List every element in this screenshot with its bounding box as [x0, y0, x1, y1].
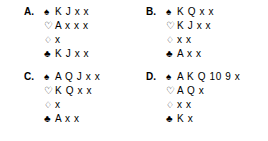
hand-b-heart-row: ♡ K J x x: [166, 19, 214, 33]
hand-d-spade-row: ♠ A K Q 10 9 x: [166, 70, 240, 84]
hand-d-heart-row: ♡ A Q x: [166, 84, 240, 98]
diamond-icon: ♢: [44, 33, 55, 47]
club-icon: ♣: [44, 47, 55, 61]
spade-icon: ♠: [44, 5, 55, 19]
hand-d-diamond-cards: x x: [177, 98, 192, 112]
hand-a: A. ♠ K J x x ♡ A x x x ♢ x ♣ K J x x: [24, 5, 89, 61]
diamond-icon: ♢: [166, 33, 177, 47]
hand-a-label: A.: [24, 5, 44, 19]
hand-c-diamond-cards: x: [55, 98, 61, 112]
hand-b-diamond-row: ♢ x x: [166, 33, 214, 47]
hand-b-spade-row: ♠ K Q x x: [166, 5, 214, 19]
club-icon: ♣: [166, 47, 177, 61]
heart-icon: ♡: [44, 19, 55, 33]
hand-d-label: D.: [146, 70, 166, 84]
hand-c-heart-row: ♡ K Q x x: [44, 84, 100, 98]
hand-d-club-row: ♣ K x: [166, 112, 240, 126]
diamond-icon: ♢: [166, 98, 177, 112]
hand-c: C. ♠ A Q J x x ♡ K Q x x ♢ x ♣ A x x: [24, 70, 100, 126]
club-icon: ♣: [166, 112, 177, 126]
heart-icon: ♡: [44, 84, 55, 98]
hand-b-diamond-cards: x x: [177, 33, 192, 47]
diamond-icon: ♢: [44, 98, 55, 112]
hand-c-label: C.: [24, 70, 44, 84]
hand-b-suits: ♠ K Q x x ♡ K J x x ♢ x x ♣ A x x: [166, 5, 214, 61]
hand-b-club-row: ♣ A x x: [166, 47, 214, 61]
heart-icon: ♡: [166, 84, 177, 98]
bridge-hands-figure: A. ♠ K J x x ♡ A x x x ♢ x ♣ K J x x B.: [0, 0, 268, 141]
hand-d: D. ♠ A K Q 10 9 x ♡ A Q x ♢ x x ♣ K x: [146, 70, 240, 126]
hand-a-spade-cards: K J x x: [55, 5, 89, 19]
club-icon: ♣: [44, 112, 55, 126]
hand-a-heart-row: ♡ A x x x: [44, 19, 89, 33]
hand-d-club-cards: K x: [177, 112, 193, 126]
hand-a-spade-row: ♠ K J x x: [44, 5, 89, 19]
spade-icon: ♠: [166, 70, 177, 84]
hand-b-label: B.: [146, 5, 166, 19]
hand-c-club-cards: A x x: [55, 112, 80, 126]
hand-b-heart-cards: K J x x: [177, 19, 211, 33]
hand-a-heart-cards: A x x x: [55, 19, 89, 33]
hand-a-diamond-cards: x: [55, 33, 61, 47]
hand-c-spade-row: ♠ A Q J x x: [44, 70, 100, 84]
hand-c-spade-cards: A Q J x x: [55, 70, 100, 84]
hand-d-spade-cards: A K Q 10 9 x: [177, 70, 240, 84]
hand-a-diamond-row: ♢ x: [44, 33, 89, 47]
heart-icon: ♡: [166, 19, 177, 33]
hand-c-heart-cards: K Q x x: [55, 84, 92, 98]
spade-icon: ♠: [44, 70, 55, 84]
hand-d-diamond-row: ♢ x x: [166, 98, 240, 112]
hand-c-diamond-row: ♢ x: [44, 98, 100, 112]
hand-c-club-row: ♣ A x x: [44, 112, 100, 126]
hand-a-club-row: ♣ K J x x: [44, 47, 89, 61]
hand-a-club-cards: K J x x: [55, 47, 89, 61]
hand-a-suits: ♠ K J x x ♡ A x x x ♢ x ♣ K J x x: [44, 5, 89, 61]
hand-b-club-cards: A x x: [177, 47, 202, 61]
hand-d-suits: ♠ A K Q 10 9 x ♡ A Q x ♢ x x ♣ K x: [166, 70, 240, 126]
hand-c-suits: ♠ A Q J x x ♡ K Q x x ♢ x ♣ A x x: [44, 70, 100, 126]
hand-d-heart-cards: A Q x: [177, 84, 204, 98]
spade-icon: ♠: [166, 5, 177, 19]
hand-b: B. ♠ K Q x x ♡ K J x x ♢ x x ♣ A x x: [146, 5, 214, 61]
hand-b-spade-cards: K Q x x: [177, 5, 214, 19]
